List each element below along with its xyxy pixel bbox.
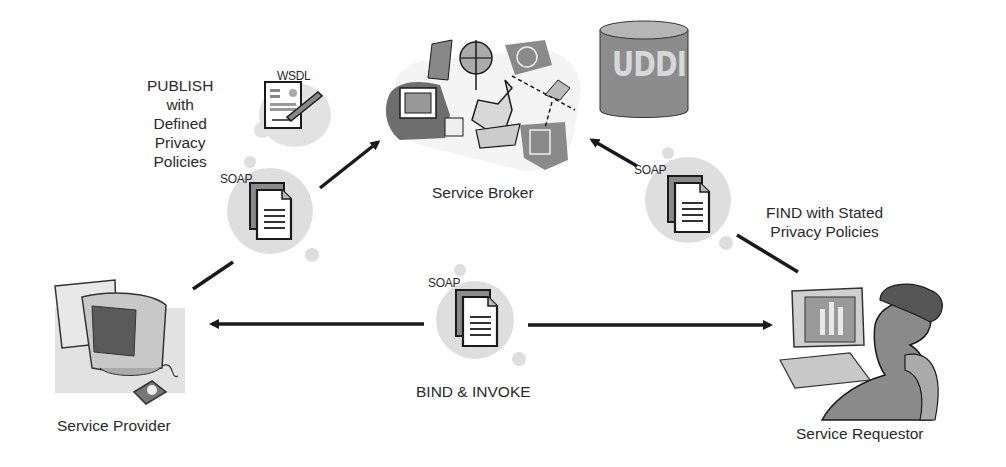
service-broker-label: Service Broker (432, 183, 534, 202)
uddi-label: UDDI (612, 44, 686, 84)
publish-label: PUBLISH with Defined Privacy Policies (147, 76, 213, 171)
publish-label-line-4: Privacy (147, 133, 213, 152)
service-broker-clipart (386, 40, 581, 171)
publish-label-line-1: PUBLISH (147, 76, 213, 95)
publish-label-line-5: Policies (147, 152, 213, 171)
soap-label-bind: SOAP (428, 276, 460, 290)
find-label-line-2: Privacy Policies (766, 222, 883, 241)
service-provider-label: Service Provider (57, 416, 171, 435)
publish-label-line-3: Defined (147, 114, 213, 133)
service-requestor-label: Service Requestor (796, 424, 924, 443)
find-label-line-1: FIND with Stated (766, 203, 883, 222)
soap-label-find: SOAP (634, 163, 666, 177)
soap-label-publish: SOAP (220, 172, 252, 186)
find-label: FIND with Stated Privacy Policies (766, 203, 883, 241)
wsdl-document-icon (254, 82, 331, 147)
service-provider-computer-icon (55, 280, 185, 404)
wsdl-label: WSDL (277, 69, 310, 83)
bind-invoke-label: BIND & INVOKE (416, 382, 531, 401)
soa-diagram: PUBLISH with Defined Privacy Policies WS… (0, 0, 1006, 467)
publish-label-line-2: with (147, 95, 213, 114)
service-requestor-icon (780, 284, 942, 420)
